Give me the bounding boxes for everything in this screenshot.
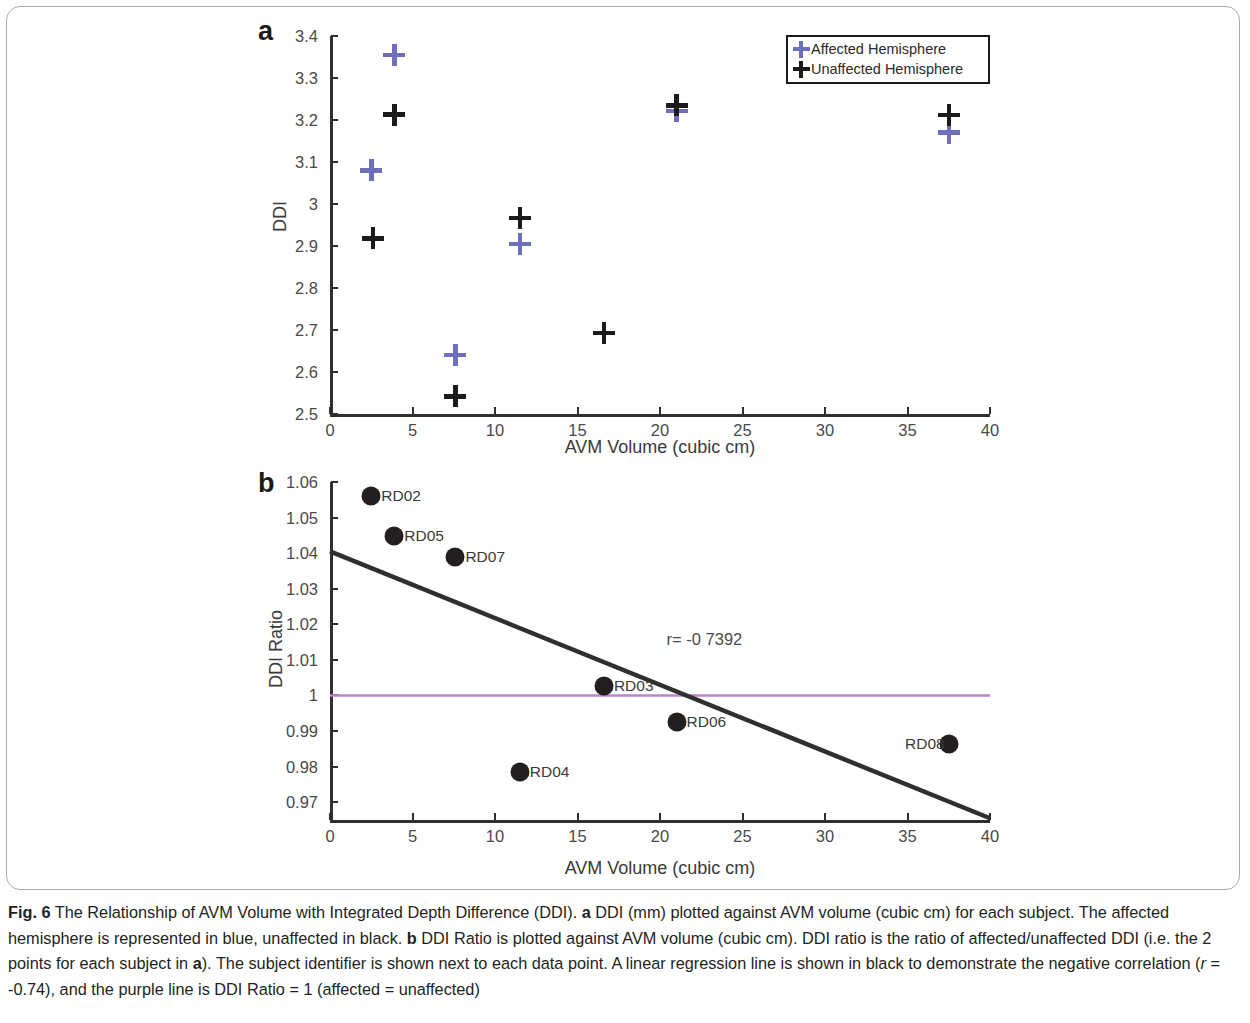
panel-a-y-tick [331,35,338,37]
panel-a-x-tick [659,407,661,414]
panel-a-y-tick [331,245,338,247]
panel-b-plot-area: 0.970.980.9911.011.021.031.041.051.06051… [330,482,990,820]
panel-b-y-tick-label: 1.04 [258,544,318,563]
panel-a-y-tick-label: 3.2 [258,111,318,130]
caption-segment: a [582,903,591,921]
panel-b-data-point-label: RD03 [614,677,654,695]
panel-b-data-point [667,713,686,732]
caption-segment: a [193,954,202,972]
panel-a-x-tick [907,407,909,414]
panel-b-data-point [510,762,529,781]
panel-b-data-point-label: RD02 [381,487,421,505]
panel-b-correlation-annotation: r= -0 7392 [667,630,743,649]
panel-a-y-tick [331,203,338,205]
panel-b-y-tick-label: 0.98 [258,757,318,776]
panel-a-y-tick [331,287,338,289]
panel-a-x-tick [577,407,579,414]
panel-b-data-point-label: RD06 [687,713,727,731]
caption-segment: The Relationship of AVM Volume with Inte… [51,903,582,921]
panel-a-y-tick-label: 2.9 [258,237,318,256]
figure-caption: Fig. 6 The Relationship of AVM Volume wi… [8,900,1242,1002]
panel-a-y-axis-title: DDI [270,201,291,232]
panel-b-x-axis-title: AVM Volume (cubic cm) [330,858,990,879]
panel-a-x-tick [824,407,826,414]
caption-segment: ). The subject identifier is shown next … [202,954,1201,972]
panel-b-x-tick-label: 15 [568,827,586,846]
panel-b-x-axis-line [330,820,990,823]
panel-b-y-axis-title: DDI Ratio [266,610,287,688]
panel-a-x-tick [329,407,331,414]
panel-b-y-tick-label: 1.05 [258,508,318,527]
panel-a-y-tick-label: 3.1 [258,153,318,172]
panel-b-x-tick-label: 20 [651,827,669,846]
panel-b-x-tick-label: 40 [981,827,999,846]
panel-a: a 2.52.62.72.82.933.13.23.33.40510152025… [0,0,1250,460]
panel-b-y-tick-label: 0.99 [258,722,318,741]
panel-b-y-tick-label: 1.06 [258,473,318,492]
panel-b-data-point [446,547,465,566]
panel-a-x-tick [989,407,991,414]
panel-b-x-tick-label: 30 [816,827,834,846]
panel-b-x-tick-label: 25 [733,827,751,846]
panel-a-y-tick [331,161,338,163]
panel-b-x-tick-label: 5 [408,827,417,846]
panel-b-data-point-label: RD05 [404,527,444,545]
panel-a-legend-item-1: Unaffected Hemisphere [791,59,983,79]
panel-a-y-axis-line [330,36,333,414]
panel-a-x-tick [412,407,414,414]
panel-a-y-tick-label: 3.3 [258,69,318,88]
panel-b-y-tick-label: 1 [258,686,318,705]
panel-a-y-tick [331,329,338,331]
panel-b-data-point-label: RD07 [465,548,505,566]
panel-a-plot-area: 2.52.62.72.82.933.13.23.33.4051015202530… [330,36,990,414]
panel-a-x-axis-line [330,414,990,417]
panel-a-y-tick-label: 2.8 [258,279,318,298]
figure-container: a 2.52.62.72.82.933.13.23.33.40510152025… [0,0,1250,1023]
panel-b: b 0.970.980.9911.011.021.031.041.051.060… [0,460,1250,900]
panel-b-data-point-label: RD04 [530,763,570,781]
caption-segment: Fig. 6 [8,903,51,921]
panel-b-data-point [362,487,381,506]
panel-b-data-point-label: RD08 [905,735,945,753]
caption-segment: b [407,929,417,947]
panel-b-y-tick-label: 0.97 [258,793,318,812]
panel-b-data-point [385,527,404,546]
panel-a-legend: Affected HemisphereUnaffected Hemisphere [786,35,990,84]
panel-a-legend-label: Affected Hemisphere [811,41,946,57]
panel-a-y-tick-label: 2.7 [258,321,318,340]
panel-b-y-tick-label: 1.03 [258,579,318,598]
panel-a-y-tick [331,371,338,373]
panel-a-y-tick [331,77,338,79]
panel-b-x-tick-label: 0 [325,827,334,846]
panel-b-data-point [594,677,613,696]
panel-b-x-tick-label: 35 [898,827,916,846]
panel-a-y-tick-label: 3.4 [258,27,318,46]
panel-a-legend-label: Unaffected Hemisphere [811,61,963,77]
panel-a-legend-item-0: Affected Hemisphere [791,39,983,59]
panel-a-x-tick [742,407,744,414]
panel-a-y-tick-label: 2.6 [258,363,318,382]
legend-plus-icon [791,60,811,78]
panel-a-x-tick [494,407,496,414]
panel-a-y-tick-label: 2.5 [258,405,318,424]
panel-b-x-tick-label: 10 [486,827,504,846]
panel-a-y-tick [331,413,338,415]
panel-a-y-tick [331,119,338,121]
legend-plus-icon [791,40,811,58]
panel-a-x-axis-title: AVM Volume (cubic cm) [330,437,990,458]
